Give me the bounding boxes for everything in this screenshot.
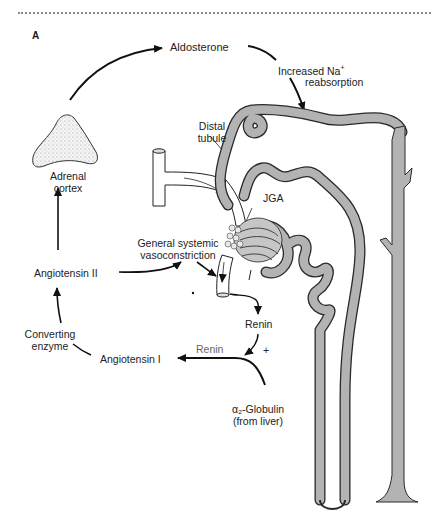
arrow-adrenal-to-aldosterone [70,48,162,100]
arrow-vessel-to-renin [230,294,259,314]
label-vasoconstriction: General systemicvasoconstriction [128,237,228,261]
afferent-arteriole [153,149,246,297]
label-distal-tubule: Distaltubule [192,120,232,144]
adrenal-gland-icon [33,115,98,167]
collecting-duct [376,126,418,502]
arrow-globulin-to-angio1 [178,358,265,385]
label-aldosterone: Aldosterone [170,41,229,53]
label-globulin: α₂-Globulin(from liver) [220,403,296,427]
arrow-renin-to-reaction [245,334,258,355]
arrow-aldosterone-to-na [248,46,276,60]
nephron-tubule-fill [220,109,402,500]
arrow-angio2-to-vasoconstriction [119,262,181,272]
glomerulus [234,218,282,262]
label-renin-arrow: Renin [196,343,223,355]
label-angiotensin-ii: Angiotensin II [34,267,98,279]
arrow-na-to-tubule [290,78,304,110]
label-plus: + [263,344,269,356]
label-jga: JGA [263,192,283,204]
arrow-enzyme-to-angio2 [57,288,61,323]
label-adrenal-cortex: Adrenalcortex [38,170,98,194]
label-converting-enzyme: Convertingenzyme [20,328,80,352]
arrow-vasoconstriction-to-vessel [197,262,216,276]
label-angiotensin-i: Angiotensin I [100,353,161,365]
label-reabsorption: reabsorption [305,76,363,88]
label-renin: Renin [245,318,272,330]
label-increased-na: Increased Na+ [278,62,345,77]
